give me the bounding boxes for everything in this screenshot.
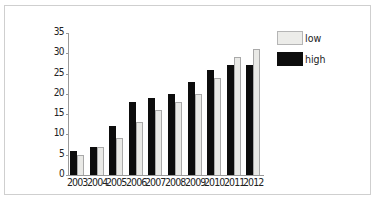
bar-low-2011 (234, 57, 241, 175)
bar-low-2010 (214, 78, 221, 175)
y-tick-label: 0 (50, 169, 64, 179)
y-tick (66, 33, 69, 34)
y-tick-label: 35 (50, 27, 64, 37)
x-tick-label: 2012 (243, 176, 263, 188)
legend-swatch-low (277, 31, 303, 45)
y-tick (66, 74, 69, 75)
y-axis (68, 33, 69, 175)
x-tick-label: 2009 (185, 176, 205, 188)
bar-low-2012 (253, 49, 260, 175)
bar-low-2004 (97, 147, 104, 175)
x-tick-label: 2007 (145, 176, 165, 188)
x-tick-label: 2006 (126, 176, 146, 188)
y-tick (66, 53, 69, 54)
x-tick-label: 2003 (67, 176, 87, 188)
bar-low-2005 (116, 138, 123, 175)
y-tick (66, 134, 69, 135)
bar-high-2007 (148, 98, 155, 175)
bar-low-2009 (195, 94, 202, 175)
y-tick-label: 25 (50, 68, 64, 78)
x-tick-label: 2005 (106, 176, 126, 188)
y-tick-label: 5 (50, 149, 64, 159)
bar-low-2008 (175, 102, 182, 175)
bar-high-2012 (246, 65, 253, 175)
bar-high-2003 (70, 151, 77, 175)
legend-swatch-high (277, 52, 303, 66)
bar-high-2008 (168, 94, 175, 175)
bar-low-2006 (136, 122, 143, 175)
x-tick-label: 2008 (165, 176, 185, 188)
bar-high-2006 (129, 102, 136, 175)
y-tick-label: 20 (50, 88, 64, 98)
x-tick-label: 2004 (87, 176, 107, 188)
bar-high-2005 (109, 126, 116, 175)
y-tick-label: 15 (50, 108, 64, 118)
bar-high-2010 (207, 70, 214, 175)
y-tick (66, 114, 69, 115)
legend-label-low: low (305, 32, 321, 44)
y-tick (66, 155, 69, 156)
bar-low-2003 (77, 155, 84, 175)
bar-low-2007 (155, 110, 162, 175)
legend-label-high: high (305, 53, 326, 65)
bar-high-2004 (90, 147, 97, 175)
y-tick (66, 94, 69, 95)
x-tick-label: 2010 (204, 176, 224, 188)
y-tick-label: 10 (50, 128, 64, 138)
x-tick-label: 2011 (224, 176, 244, 188)
bar-high-2011 (227, 65, 234, 175)
y-tick-label: 30 (50, 47, 64, 57)
bar-high-2009 (188, 82, 195, 175)
